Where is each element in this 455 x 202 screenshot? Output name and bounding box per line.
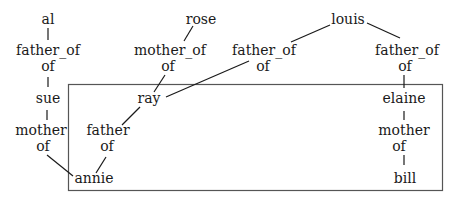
node-rose: rose [186,11,217,27]
node-elaine: elaine [383,90,426,106]
node-louis: louis [331,11,365,27]
relation-elaine-bill-line1: mother [378,122,429,138]
relation-louis-ray-line2: of [256,58,270,74]
node-al: al [42,11,55,27]
edge-louis-relation-right [367,23,400,38]
relation-al-sue-line2: of [41,58,55,74]
edge-rose-relation [184,26,193,41]
node-bill: bill [394,170,416,186]
relation-al-sue-line1: father_of [16,42,80,58]
relation-elaine-bill-line2: of [392,138,406,154]
edge-relation-ray-louis [166,61,249,97]
relation-louis-elaine-line2: of [398,58,412,74]
edge-louis-relation-left [291,25,330,42]
relation-rose-ray-line2: of [161,58,175,74]
relation-sue-annie-line1: mother [15,122,66,138]
relation-ray-annie-line1: father [86,122,129,138]
node-sue: sue [36,90,61,106]
relation-ray-annie-line2: of [100,138,114,154]
family-diagram: al rose louis father_of of mother_of of … [0,0,455,202]
relation-louis-elaine-line1: father_of [375,42,439,58]
node-annie: annie [74,170,113,186]
node-ray: ray [138,90,161,106]
relation-rose-ray-line1: mother_of [134,42,206,58]
relation-sue-annie-line2: of [36,138,50,154]
relation-louis-ray-line1: father_of [232,42,296,58]
